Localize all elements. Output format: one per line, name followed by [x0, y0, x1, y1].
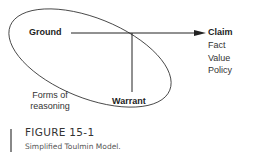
- claim-type-policy: Policy: [208, 64, 232, 77]
- claim-type-fact: Fact: [208, 39, 232, 52]
- figure-title: FIGURE 15-1: [25, 126, 94, 138]
- warrant-label: Warrant: [112, 96, 146, 107]
- arrow-head-icon: [194, 30, 206, 36]
- forms-of-reasoning-label: Forms of reasoning: [25, 90, 75, 112]
- forms-line-1: Forms of: [25, 90, 75, 101]
- claim-type-value: Value: [208, 52, 232, 65]
- toulmin-diagram: Ground Warrant Claim Fact Value Policy F…: [0, 0, 257, 112]
- caption-bar: [10, 129, 12, 152]
- figure-subtitle: Simplified Toulmin Model.: [25, 142, 121, 151]
- ground-label: Ground: [29, 27, 62, 38]
- forms-line-2: reasoning: [25, 101, 75, 112]
- claim-types-list: Fact Value Policy: [208, 39, 232, 77]
- claim-label: Claim: [208, 27, 233, 38]
